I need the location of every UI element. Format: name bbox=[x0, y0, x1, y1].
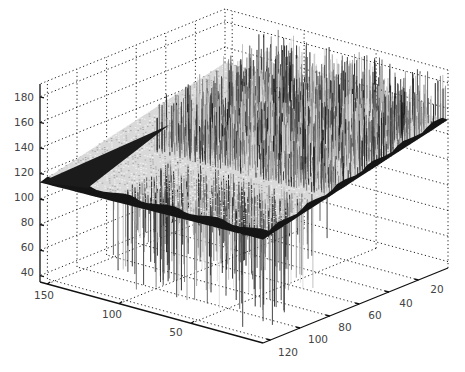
surface-plot: 180 160 140 120 100 80 60 40 150 100 50 … bbox=[0, 0, 465, 372]
z-tick-label: 180 bbox=[14, 91, 34, 103]
y-tick-label: 20 bbox=[430, 283, 443, 295]
x-tick-label: 150 bbox=[34, 289, 54, 301]
y-tick-label: 60 bbox=[368, 309, 381, 321]
y-tick-label: 80 bbox=[338, 321, 351, 333]
z-tick-label: 160 bbox=[14, 116, 34, 128]
z-tick-label: 140 bbox=[14, 141, 34, 153]
y-tick-label: 40 bbox=[399, 297, 412, 309]
surface-mesh bbox=[40, 30, 448, 327]
y-axis-tick-labels: 120 100 80 60 40 20 bbox=[278, 283, 444, 358]
y-tick-label: 100 bbox=[308, 333, 328, 345]
y-tick-label: 120 bbox=[278, 346, 298, 358]
z-tick-label: 40 bbox=[21, 266, 34, 278]
z-tick-label: 100 bbox=[14, 191, 34, 203]
x-axis-tick-labels: 150 100 50 bbox=[34, 289, 183, 338]
z-tick-label: 60 bbox=[21, 241, 34, 253]
x-tick-label: 100 bbox=[102, 308, 122, 320]
z-axis-tick-labels: 180 160 140 120 100 80 60 40 bbox=[14, 91, 34, 278]
z-tick-label: 80 bbox=[21, 216, 34, 228]
z-tick-label: 120 bbox=[14, 166, 34, 178]
x-tick-label: 50 bbox=[169, 326, 182, 338]
